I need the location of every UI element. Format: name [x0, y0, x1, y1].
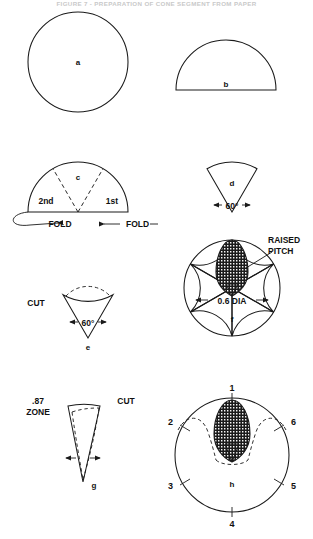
figure-f-raised-label: RAISED — [268, 235, 300, 245]
figure-c-label: c — [76, 173, 81, 182]
figure-h-position-1: 1 — [229, 383, 234, 393]
figure-c-fold-line-right — [78, 169, 103, 212]
figure-e-cut-arc — [66, 286, 110, 296]
figure-h: 1 2 3 4 5 6 h — [168, 383, 296, 529]
figure-b: b — [176, 40, 276, 90]
technical-diagram: a b c 2nd 1st FOLD FOLD d — [0, 0, 313, 539]
figure-g: .87 ZONE CUT g — [26, 396, 135, 490]
figure-c-fold-line-left — [53, 169, 78, 212]
figure-h-position-3: 3 — [168, 481, 173, 491]
figure-c: c 2nd 1st FOLD FOLD — [13, 162, 158, 229]
figure-g-cut-label: CUT — [117, 396, 135, 406]
figure-a: a — [28, 12, 128, 112]
figure-f: RAISED PITCH 0.6 DIA f — [184, 235, 300, 336]
figure-h-position-5: 5 — [291, 481, 296, 491]
figure-h-position-6: 6 — [291, 417, 296, 427]
figure-g-label: g — [92, 481, 97, 490]
figure-a-label: a — [76, 58, 81, 67]
figure-b-label: b — [224, 80, 229, 89]
figure-e-label: e — [86, 343, 91, 352]
figure-e-angle-label: 60° — [82, 318, 95, 328]
figure-c-first-fold-label: 1st — [106, 196, 118, 206]
figure-d: d 60° — [207, 162, 257, 212]
figure-c-second-fold-label: 2nd — [38, 196, 53, 206]
figure-h-position-4: 4 — [229, 519, 234, 529]
figure-e-cut-label: CUT — [27, 298, 45, 308]
figure-h-position-2: 2 — [168, 417, 173, 427]
figure-f-label: f — [231, 315, 234, 324]
figure-g-zone-word-label: ZONE — [26, 407, 50, 417]
figure-f-dia-label: 0.6 DIA — [218, 296, 247, 306]
figure-g-zone-value-label: .87 — [32, 396, 44, 406]
figure-e-sector — [63, 295, 113, 338]
figure-c-fold-label-right: FOLD — [126, 219, 149, 229]
figure-g-cut-curve-top — [72, 408, 99, 412]
figure-g-wedge — [68, 404, 100, 482]
figure-d-angle-label: 60° — [226, 201, 239, 211]
diagram-sheet: FIGURE 7 - PREPARATION OF CONE SEGMENT F… — [0, 0, 313, 539]
figure-c-fold-label-left: FOLD — [48, 219, 71, 229]
figure-h-label: h — [230, 480, 235, 489]
figure-e: CUT 60° e — [27, 286, 113, 352]
figure-g-cut-curve-left — [72, 412, 83, 480]
figure-d-label: d — [230, 179, 235, 188]
figure-f-pitch-label: PITCH — [268, 246, 294, 256]
